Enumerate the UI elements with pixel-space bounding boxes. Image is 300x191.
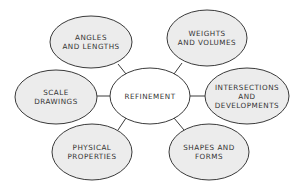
node-shapes-and-forms: SHAPES ANDFORMS xyxy=(169,124,249,180)
node-label: INTERSECTIONS xyxy=(215,83,279,92)
node-label: PROPERTIES xyxy=(68,152,117,161)
node-intersections-and-developments: INTERSECTIONSANDDEVELOPMENTS xyxy=(205,68,289,124)
node-label: DRAWINGS xyxy=(34,97,78,106)
node-label: AND LENGTHS xyxy=(62,42,119,51)
node-label: DEVELOPMENTS xyxy=(215,101,279,110)
node-scale-drawings: SCALEDRAWINGS xyxy=(15,70,97,124)
node-label: PHYSICAL xyxy=(73,143,112,152)
node-label: AND VOLUMES xyxy=(178,38,236,47)
node-physical-properties: PHYSICALPROPERTIES xyxy=(52,124,132,180)
refinement-mind-map: ANGLESAND LENGTHSWEIGHTSAND VOLUMESSCALE… xyxy=(0,0,300,191)
node-label: ANGLES xyxy=(75,33,107,42)
node-label: SHAPES AND xyxy=(183,143,234,152)
node-label: FORMS xyxy=(195,152,223,161)
node-label: REFINEMENT xyxy=(124,92,175,101)
node-label: SCALE xyxy=(43,88,69,97)
node-angles-and-lengths: ANGLESAND LENGTHS xyxy=(50,16,132,68)
node-label: WEIGHTS xyxy=(188,29,225,38)
node-weights-and-volumes: WEIGHTSAND VOLUMES xyxy=(167,10,247,66)
center-node: REFINEMENT xyxy=(110,68,190,124)
connector-weights-and-volumes xyxy=(174,63,182,74)
node-label: AND xyxy=(238,92,255,101)
connector-angles-and-lengths xyxy=(118,64,126,74)
connector-shapes-and-forms xyxy=(174,118,184,130)
node-refinement: REFINEMENT xyxy=(110,68,190,124)
connector-physical-properties xyxy=(118,118,126,130)
